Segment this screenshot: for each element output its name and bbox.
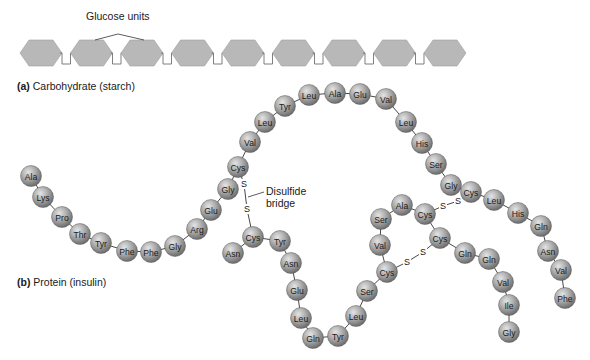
svg-text:Leu: Leu (294, 314, 309, 324)
glycosidic-link (212, 53, 225, 64)
amino-acid-ala: Ala (325, 83, 346, 104)
svg-text:Ala: Ala (396, 201, 409, 211)
glucose-units-label: Glucose units (86, 10, 150, 22)
amino-acid-asn: Asn (538, 241, 559, 262)
svg-text:Gly: Gly (503, 328, 517, 338)
amino-acid-ser: Ser (371, 209, 392, 230)
amino-acid-leu: Leu (299, 85, 320, 106)
glucose-unit (374, 40, 416, 66)
sulfur-atom: S (244, 204, 250, 214)
amino-acid-phe: Phe (555, 288, 576, 309)
sulfur-atom: S (420, 247, 426, 257)
amino-acid-tyr: Tyr (328, 326, 349, 347)
glycosidic-link (161, 53, 174, 64)
svg-text:Gly: Gly (222, 185, 236, 195)
amino-acid-leu: Leu (255, 112, 276, 133)
glycosidic-link (414, 53, 427, 64)
amino-acid-val: Val (551, 260, 572, 281)
amino-acid-pro: Pro (52, 207, 73, 228)
carbohydrate-caption: (a) Carbohydrate (starch) (17, 80, 135, 92)
svg-text:Asn: Asn (541, 247, 556, 257)
amino-acid-val: Val (493, 272, 514, 293)
sulfur-atom: S (404, 257, 410, 267)
svg-text:Cys: Cys (464, 188, 479, 198)
svg-text:Tyr: Tyr (95, 239, 107, 249)
svg-text:Leu: Leu (302, 91, 317, 101)
amino-acid-cys: Cys (415, 204, 436, 225)
amino-acid-thr: Thr (70, 224, 91, 245)
svg-text:Cys: Cys (433, 234, 448, 244)
svg-text:Glu: Glu (204, 206, 218, 216)
svg-text:Gly: Gly (445, 181, 459, 191)
svg-text:Gln: Gln (534, 222, 548, 232)
amino-acid-gly: Gly (218, 179, 239, 200)
amino-acid-cys: Cys (243, 227, 264, 248)
amino-acid-arg: Arg (187, 219, 208, 240)
svg-text:Gln: Gln (482, 255, 496, 265)
amino-acid-gln: Gln (479, 249, 500, 270)
svg-text:Val: Val (380, 95, 392, 105)
amino-acid-ala: Ala (392, 195, 413, 216)
amino-acid-ser: Ser (426, 154, 447, 175)
svg-text:Asn: Asn (226, 249, 241, 259)
glucose-unit (323, 40, 365, 66)
svg-text:Gly: Gly (169, 242, 183, 252)
starch-chain (20, 40, 466, 66)
glucose-callout-lines (95, 34, 144, 40)
amino-acid-leu: Leu (291, 308, 312, 329)
svg-text:Phe: Phe (119, 247, 135, 257)
svg-text:Tyr: Tyr (279, 102, 291, 112)
svg-text:Leu: Leu (399, 118, 414, 128)
amino-acid-ala: Ala (21, 166, 42, 187)
disulfide-label-line2: bridge (266, 197, 306, 209)
amino-acid-gln: Gln (303, 328, 324, 349)
svg-text:Gln: Gln (306, 334, 320, 344)
amino-acid-his: His (412, 133, 433, 154)
svg-text:Cys: Cys (418, 210, 433, 220)
glucose-unit (273, 40, 315, 66)
amino-acid-cys: Cys (228, 157, 249, 178)
amino-acid-lys: Lys (33, 187, 54, 208)
peptide-bonds (31, 93, 565, 338)
amino-acid-leu: Leu (346, 306, 367, 327)
amino-acid-gln: Gln (455, 243, 476, 264)
amino-acid-asn: Asn (281, 253, 302, 274)
macromolecule-figure: SSSSSS AlaLysProThrTyrPhePheGlyArgGluGly… (0, 0, 590, 360)
amino-acid-val: Val (376, 89, 397, 110)
amino-acid-val: Val (370, 235, 391, 256)
svg-text:Phe: Phe (557, 294, 573, 304)
disulfide-label-line1: Disulfide (266, 185, 306, 197)
amino-acid-glu: Glu (287, 280, 308, 301)
amino-acid-phe: Phe (117, 241, 138, 262)
amino-acid-his: His (508, 203, 529, 224)
svg-text:Leu: Leu (258, 118, 273, 128)
amino-acid-val: Val (240, 132, 261, 153)
svg-text:Cys: Cys (231, 163, 246, 173)
svg-text:Lys: Lys (36, 193, 49, 203)
amino-acid-leu: Leu (396, 112, 417, 133)
svg-text:Cys: Cys (246, 233, 261, 243)
svg-text:Glu: Glu (290, 286, 304, 296)
svg-text:Thr: Thr (74, 230, 87, 240)
amino-acid-leu: Leu (484, 190, 505, 211)
glucose-unit (222, 40, 264, 66)
amino-acid-ser: Ser (357, 281, 378, 302)
svg-text:Ser: Ser (360, 287, 374, 297)
svg-text:Val: Val (555, 266, 567, 276)
disulfide-bonds: SSSSSS (238, 167, 471, 272)
glycosidic-link (111, 53, 124, 64)
glucose-unit (424, 40, 466, 66)
glucose-unit (172, 40, 214, 66)
glucose-unit (71, 40, 113, 66)
svg-text:Asn: Asn (284, 259, 299, 269)
caption-letter-a: (a) (17, 80, 30, 92)
svg-text:Val: Val (374, 241, 386, 251)
amino-acid-tyr: Tyr (275, 96, 296, 117)
svg-text:Val: Val (497, 278, 509, 288)
amino-acid-tyr: Tyr (91, 233, 112, 254)
amino-acid-cys: Cys (430, 228, 451, 249)
protein-caption: (b) Protein (insulin) (17, 276, 106, 288)
svg-text:Phe: Phe (143, 248, 159, 258)
figure-canvas: SSSSSS AlaLysProThrTyrPhePheGlyArgGluGly… (0, 0, 590, 360)
svg-text:Ala: Ala (25, 172, 38, 182)
